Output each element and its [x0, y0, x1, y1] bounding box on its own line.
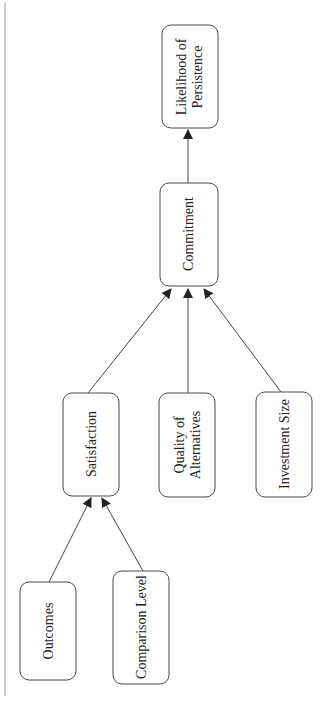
edge-comparison-satisfaction [102, 498, 143, 571]
node-label: Commitment [181, 197, 196, 271]
node-comparison-level: Comparison Level [113, 571, 169, 684]
node-commitment: Commitment [160, 183, 218, 286]
investment-model-diagram: Outcomes Comparison Level Satisfaction Q… [0, 0, 331, 702]
node-quality-of-alternatives: Quality of Alternatives [159, 393, 215, 497]
node-investment-size: Investment Size [256, 392, 312, 497]
node-likelihood-of-persistence: Likelihood of Persistence [162, 25, 218, 128]
node-satisfaction: Satisfaction [63, 393, 119, 496]
node-outcomes: Outcomes [20, 582, 76, 680]
edge-satisfaction-commitment [88, 289, 171, 393]
node-label-line-1: Likelihood of [174, 38, 189, 115]
node-label: Investment Size [277, 399, 292, 489]
node-label: Satisfaction [84, 411, 99, 477]
node-label-line-2: Alternatives [188, 411, 203, 479]
node-label: Outcomes [41, 603, 56, 660]
edge-outcomes-satisfaction [49, 498, 91, 582]
node-label-line-1: Quality of [172, 416, 187, 473]
edge-investment-commitment [204, 289, 281, 392]
node-label: Comparison Level [134, 575, 149, 679]
node-label-line-2: Persistence [190, 46, 205, 109]
